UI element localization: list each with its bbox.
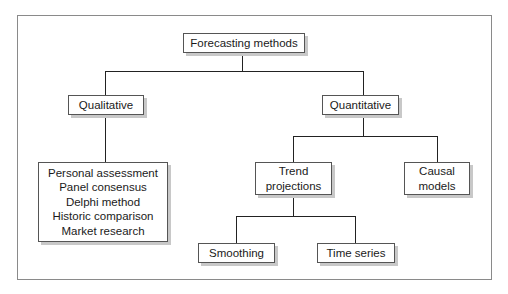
node-label: Quantitative (330, 98, 391, 113)
connector-level2-horizontal (293, 136, 438, 137)
node-trend-projections: Trend projections (255, 162, 332, 195)
node-forecasting-methods: Forecasting methods (183, 33, 305, 53)
node-label-line: models (418, 179, 455, 194)
node-label: Smoothing (209, 246, 264, 261)
connector-to-qualitative (105, 71, 106, 95)
connector-trend-down (293, 195, 294, 216)
connector-to-time-series (355, 216, 356, 243)
connector-to-causal (437, 136, 438, 162)
node-qualitative: Qualitative (68, 95, 144, 115)
node-label-line: projections (266, 179, 322, 194)
connector-to-smoothing (236, 216, 237, 243)
method-item: Historic comparison (53, 209, 154, 224)
connector-to-trend (293, 136, 294, 162)
connector-quantitative-down (363, 115, 364, 136)
node-label: Time series (327, 246, 386, 261)
node-causal-models: Causal models (404, 162, 470, 195)
node-smoothing: Smoothing (198, 243, 275, 263)
node-time-series: Time series (317, 243, 395, 263)
connector-level3-horizontal (236, 216, 356, 217)
node-label: Qualitative (79, 98, 133, 113)
node-quantitative: Quantitative (322, 95, 399, 115)
connector-level1-horizontal (105, 71, 364, 72)
node-label-line: Trend (279, 164, 309, 179)
connector-qualitative-down (105, 115, 106, 162)
node-label-line: Causal (419, 164, 455, 179)
connector-to-quantitative (363, 71, 364, 95)
connector-root-down (242, 52, 243, 71)
method-item: Personal assessment (48, 166, 158, 181)
node-label: Forecasting methods (190, 36, 297, 51)
method-item: Market research (61, 224, 144, 239)
method-item: Delphi method (66, 195, 140, 210)
method-item: Panel consensus (59, 180, 147, 195)
node-qualitative-methods: Personal assessment Panel consensus Delp… (38, 162, 168, 242)
